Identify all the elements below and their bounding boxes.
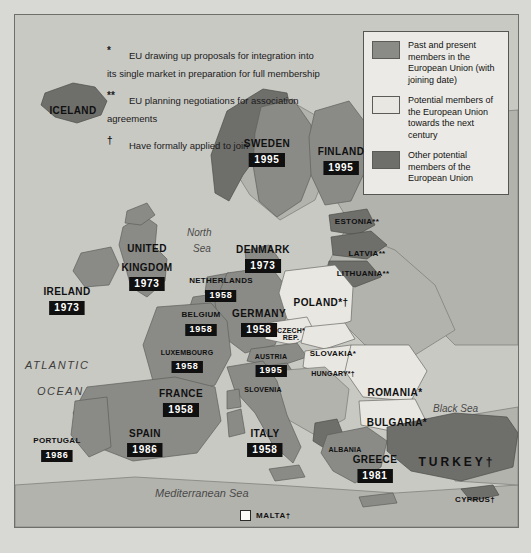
country-label-greece: GREECE 1981	[353, 455, 398, 483]
country-label-finland: FINLAND 1995	[318, 147, 365, 175]
country-date-austria: 1995	[255, 365, 286, 376]
country-name-greece: GREECE	[353, 455, 398, 466]
water-label-mediterranean-sea: Mediterranean Sea	[155, 487, 249, 499]
country-date-spain: 1986	[127, 443, 162, 458]
country-date-germany: 1958	[241, 323, 276, 338]
country-label-estonia: ESTONIA**	[335, 211, 379, 228]
land-sicily	[269, 465, 305, 481]
country-date-denmark: 1973	[245, 259, 280, 274]
footnote-single-asterisk: * EU drawing up proposals for integratio…	[107, 45, 322, 81]
country-label-slovakia: SLOVAKIA*	[310, 343, 357, 360]
country-label-italy: ITALY 1958	[247, 429, 282, 457]
legend-swatch-potential-next-century	[372, 96, 400, 114]
country-label-turkey: TURKEY†	[418, 453, 495, 470]
country-date-italy: 1958	[247, 443, 282, 458]
eu-membership-map: .m { fill:#8a8a86; stroke:#5e5e5b; strok…	[0, 0, 531, 553]
country-name-kingdom: KINGDOM	[121, 263, 172, 274]
footnote-marker: **	[107, 90, 123, 101]
country-name-italy: ITALY	[247, 429, 282, 440]
country-name-latvia: LATVIA**	[349, 249, 386, 258]
country-name-sweden: SWEDEN	[244, 139, 290, 150]
country-label-portugal: PORTUGAL 1986	[33, 437, 80, 462]
country-label-lithuania: LITHUANIA**	[337, 263, 390, 280]
country-date-belgium: 1958	[185, 324, 216, 335]
legend-swatch-other-potential	[372, 151, 400, 169]
country-date-sweden: 1995	[249, 153, 284, 168]
legend-label-potential-next-century: Potential members of the European Union …	[408, 95, 500, 141]
country-name-poland: POLAND*†	[294, 297, 349, 308]
country-date-greece: 1981	[357, 469, 392, 484]
country-name-portugal: PORTUGAL	[33, 437, 80, 445]
country-label-belgium: BELGIUM 1958	[182, 311, 221, 336]
country-name-lithuania: LITHUANIA**	[337, 269, 390, 278]
country-name-finland: FINLAND	[318, 147, 365, 158]
country-date-netherlands: 1958	[205, 290, 236, 301]
country-name-slovenia: SLOVENIA	[244, 386, 281, 393]
country-date-portugal: 1986	[41, 450, 72, 461]
country-label-united: UNITED	[127, 239, 167, 256]
country-name-czech-rep: REP.	[277, 334, 305, 341]
country-name-albania: ALBANIA	[329, 446, 362, 453]
country-label-slovenia: SLOVENIA	[244, 379, 281, 396]
country-label-luxembourg: LUXEMBOURG 1958	[161, 349, 214, 373]
footnote-marker: *	[107, 45, 123, 56]
map-frame: .m { fill:#8a8a86; stroke:#5e5e5b; strok…	[14, 14, 519, 528]
country-name-austria: AUSTRIA	[255, 353, 288, 360]
country-name-iceland: ICELAND	[49, 105, 96, 116]
country-label-spain: SPAIN 1986	[127, 429, 162, 457]
country-name-turkey: TURKEY†	[418, 455, 495, 469]
water-label-black-sea: Black Sea	[433, 403, 478, 414]
country-name-hungary: HUNGARY*†	[311, 370, 355, 377]
country-name-czech: CZECH*	[277, 327, 305, 334]
water-label-north-sea-line1: North	[187, 227, 211, 238]
country-name-slovakia: SLOVAKIA*	[310, 349, 357, 358]
legend-label-other-potential: Other potential members of the European …	[408, 150, 500, 185]
malta-footer-entry: MALTA†	[240, 510, 291, 521]
country-label-denmark: DENMARK 1973	[236, 245, 290, 273]
legend-swatch-members	[372, 41, 400, 59]
land-ireland	[73, 247, 119, 287]
country-label-poland: POLAND*†	[294, 293, 349, 310]
legend-item-other-potential: Other potential members of the European …	[372, 150, 500, 185]
water-label-north-sea-line2: Sea	[193, 243, 211, 254]
country-name-bulgaria: BULGARIA*	[367, 417, 427, 428]
country-label-ireland: IRELAND 1973	[43, 287, 90, 315]
country-label-france: FRANCE 1958	[159, 389, 203, 417]
country-name-germany: GERMANY	[232, 309, 286, 320]
country-name-spain: SPAIN	[127, 429, 162, 440]
legend-label-members: Past and present members in the European…	[408, 40, 500, 86]
country-name-cyprus: CYPRUS†	[455, 495, 495, 504]
country-name-estonia: ESTONIA**	[335, 217, 379, 226]
country-label-sweden: SWEDEN 1995	[244, 139, 290, 167]
country-label-czech-rep: CZECH* REP.	[277, 327, 305, 342]
water-label-ocean: OCEAN	[37, 385, 84, 397]
country-label-netherlands: NETHERLANDS 1958	[189, 277, 253, 302]
country-date-kingdom: 1973	[129, 277, 164, 292]
country-name-belgium: BELGIUM	[182, 311, 221, 319]
country-name-ireland: IRELAND	[43, 287, 90, 298]
land-corsica	[227, 389, 241, 409]
footnote-text: EU planning negotiations for association…	[107, 95, 299, 124]
country-name-france: FRANCE	[159, 389, 203, 400]
country-label-austria: AUSTRIA 1995	[255, 353, 288, 377]
footnote-text: EU drawing up proposals for integration …	[107, 50, 320, 79]
land-sardinia	[227, 409, 245, 437]
malta-swatch	[240, 510, 251, 521]
country-label-hungary: HUNGARY*†	[311, 363, 355, 380]
footnote-double-asterisk: ** EU planning negotiations for associat…	[107, 90, 322, 126]
country-name-malta: MALTA†	[256, 511, 291, 520]
country-name-denmark: DENMARK	[236, 245, 290, 256]
footnote-text: Have formally applied to join	[129, 140, 248, 151]
country-label-cyprus: CYPRUS†	[455, 489, 495, 506]
country-label-latvia: LATVIA**	[349, 243, 386, 260]
country-label-iceland: ICELAND	[49, 101, 96, 118]
country-date-finland: 1995	[323, 161, 358, 176]
country-name-netherlands: NETHERLANDS	[189, 277, 253, 285]
country-name-luxembourg: LUXEMBOURG	[161, 349, 214, 356]
country-name-united: UNITED	[127, 243, 167, 254]
country-name-romania: ROMANIA*	[368, 387, 423, 398]
legend-item-members: Past and present members in the European…	[372, 40, 500, 86]
country-label-romania: ROMANIA*	[368, 383, 423, 400]
country-label-bulgaria: BULGARIA*	[367, 413, 427, 430]
country-date-luxembourg: 1958	[171, 361, 202, 372]
